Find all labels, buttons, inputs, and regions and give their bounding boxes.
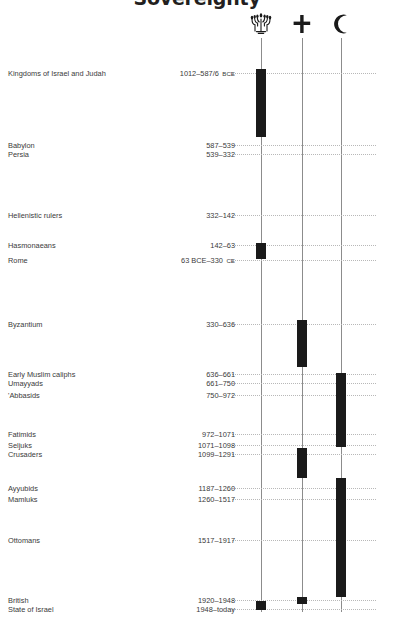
row-date-range: 1517–1917 bbox=[198, 536, 235, 545]
row-label: British bbox=[8, 596, 29, 605]
sovereignty-bar bbox=[297, 320, 307, 367]
row-era: CE bbox=[223, 257, 235, 264]
sovereignty-bar bbox=[256, 69, 266, 137]
row-date-range: 1099–1291 bbox=[198, 450, 235, 459]
leader-line bbox=[232, 245, 376, 247]
row-date-range: 1071–1098 bbox=[198, 441, 235, 450]
row-dates: 750–972 bbox=[140, 391, 235, 400]
row-dates: 636–661 bbox=[140, 370, 235, 379]
row-dates: 1071–1098 bbox=[140, 441, 235, 450]
sovereignty-bar bbox=[297, 448, 307, 478]
row-date-range: 750–972 bbox=[206, 391, 235, 400]
leader-line bbox=[232, 215, 376, 217]
row-date-range: 1948–today bbox=[196, 605, 235, 614]
row-label: Byzantium bbox=[8, 320, 43, 329]
leader-line bbox=[232, 540, 376, 542]
row-date-range: 330–636 bbox=[206, 320, 235, 329]
row-label: Rome bbox=[8, 256, 28, 265]
row-dates: 661–750 bbox=[140, 379, 235, 388]
row-dates: 539–332 bbox=[140, 150, 235, 159]
row-label: Persia bbox=[8, 150, 29, 159]
row-dates: 1948–today bbox=[140, 605, 235, 614]
row-label: Seljuks bbox=[8, 441, 32, 450]
row-date-range: 587–539 bbox=[206, 141, 235, 150]
row-date-range: 142–63 bbox=[210, 241, 235, 250]
leader-line bbox=[232, 383, 376, 385]
row-dates: 63 BCE–330 CE bbox=[140, 256, 235, 265]
row-date-range: 972–1071 bbox=[202, 430, 235, 439]
row-label: Hasmonaeans bbox=[8, 241, 56, 250]
sovereignty-bar bbox=[297, 597, 307, 604]
sovereignty-bar bbox=[256, 601, 266, 610]
row-dates: 1920–1948 bbox=[140, 596, 235, 605]
row-dates: 587–539 bbox=[140, 141, 235, 150]
leader-line bbox=[232, 73, 376, 75]
sovereignty-bar bbox=[336, 478, 346, 597]
row-dates: 142–63 bbox=[140, 241, 235, 250]
leader-line bbox=[232, 499, 376, 501]
row-label: Crusaders bbox=[8, 450, 42, 459]
leader-line bbox=[232, 434, 376, 436]
timeline-chart: Sovereignty bbox=[0, 0, 394, 636]
row-date-range: 636–661 bbox=[206, 370, 235, 379]
row-dates: 1099–1291 bbox=[140, 450, 235, 459]
row-dates: 1187–1260 bbox=[140, 484, 235, 493]
row-date-range: 1920–1948 bbox=[198, 596, 235, 605]
row-label: Hellenistic rulers bbox=[8, 211, 62, 220]
menorah-icon bbox=[244, 10, 278, 38]
leader-line bbox=[232, 154, 376, 156]
leader-line bbox=[232, 609, 376, 611]
row-label: Ayyubids bbox=[8, 484, 38, 493]
row-label: Umayyads bbox=[8, 379, 43, 388]
row-label: Fatimids bbox=[8, 430, 36, 439]
row-label: Mamluks bbox=[8, 495, 38, 504]
leader-line bbox=[232, 395, 376, 397]
sovereignty-bar bbox=[256, 243, 266, 259]
row-date-range: 1012–587/6 bbox=[180, 69, 219, 78]
row-date-range: 1187–1260 bbox=[199, 484, 235, 493]
column-symbols bbox=[0, 0, 394, 40]
sovereignty-bar bbox=[336, 373, 346, 447]
row-date-range: 332–142 bbox=[206, 211, 235, 220]
row-label: State of Israel bbox=[8, 605, 54, 614]
row-date-range: 63 BCE–330 bbox=[181, 256, 223, 265]
row-date-range: 539–332 bbox=[206, 150, 235, 159]
row-dates: 1012–587/6 BCE bbox=[140, 69, 235, 78]
row-dates: 972–1071 bbox=[140, 430, 235, 439]
leader-line bbox=[232, 260, 376, 262]
leader-line bbox=[232, 488, 376, 490]
row-date-range: 1260–1517 bbox=[198, 495, 235, 504]
row-dates: 330–636 bbox=[140, 320, 235, 329]
leader-line bbox=[232, 374, 376, 376]
leader-line bbox=[232, 145, 376, 147]
crescent-icon bbox=[324, 10, 358, 38]
row-era: BCE bbox=[219, 70, 235, 77]
row-dates: 1260–1517 bbox=[140, 495, 235, 504]
row-label: Ottomans bbox=[8, 536, 40, 545]
row-dates: 1517–1917 bbox=[140, 536, 235, 545]
row-label: Early Muslim caliphs bbox=[8, 370, 75, 379]
row-dates: 332–142 bbox=[140, 211, 235, 220]
leader-line bbox=[232, 445, 376, 447]
cross-icon bbox=[285, 10, 319, 38]
row-label: Kingdoms of Israel and Judah bbox=[8, 69, 106, 78]
row-label: 'Abbasids bbox=[8, 391, 40, 400]
row-label: Babylon bbox=[8, 141, 35, 150]
row-date-range: 661–750 bbox=[206, 379, 235, 388]
